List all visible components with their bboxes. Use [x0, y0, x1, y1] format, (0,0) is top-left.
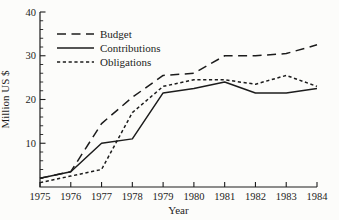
y-axis-title: Million US $ [0, 70, 11, 129]
chart-figure: 1020304019751976197719781979198019811982… [0, 0, 339, 220]
y-tick-label: 30 [26, 50, 37, 61]
line-chart: 1020304019751976197719781979198019811982… [0, 0, 339, 220]
x-tick-label: 1984 [307, 191, 329, 202]
legend-label-contributions: Contributions [100, 42, 161, 54]
x-tick-label: 1980 [183, 191, 204, 202]
legend-label-budget: Budget [100, 28, 132, 40]
y-tick-label: 40 [26, 7, 37, 18]
series-line-obligations [40, 75, 317, 182]
x-tick-label: 1978 [122, 191, 143, 202]
x-tick-label: 1981 [214, 191, 235, 202]
x-axis-title: Year [168, 204, 189, 216]
x-tick-label: 1982 [245, 191, 266, 202]
legend-label-obligations: Obligations [100, 56, 151, 68]
series-line-contributions [40, 82, 317, 178]
x-tick-label: 1979 [153, 191, 174, 202]
x-tick-label: 1975 [30, 191, 51, 202]
series-line-budget [40, 45, 317, 178]
x-tick-label: 1976 [60, 191, 81, 202]
y-tick-label: 20 [26, 94, 37, 105]
x-tick-label: 1983 [276, 191, 297, 202]
x-tick-label: 1977 [91, 191, 112, 202]
y-tick-label: 10 [26, 138, 37, 149]
